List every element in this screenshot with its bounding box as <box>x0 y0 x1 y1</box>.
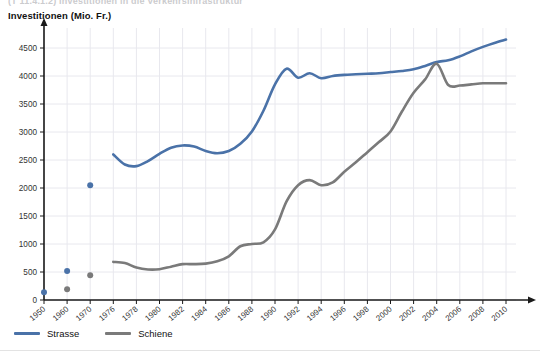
svg-text:1996: 1996 <box>328 304 348 323</box>
svg-text:1988: 1988 <box>236 304 256 323</box>
svg-text:1984: 1984 <box>190 304 210 323</box>
x-axis-ticks: 1950196019701976197819801982198419861988… <box>28 300 510 323</box>
svg-text:4500: 4500 <box>19 44 38 53</box>
chart-canvas: 050010001500200025003000350040004500 195… <box>0 0 540 351</box>
svg-text:1982: 1982 <box>166 304 186 323</box>
svg-text:2500: 2500 <box>19 156 38 165</box>
svg-text:2000: 2000 <box>19 184 38 193</box>
svg-text:3000: 3000 <box>19 128 38 137</box>
svg-text:1970: 1970 <box>74 304 94 323</box>
svg-text:2010: 2010 <box>490 304 510 323</box>
svg-text:500: 500 <box>23 268 37 277</box>
svg-text:1980: 1980 <box>143 304 163 323</box>
legend-swatch-strasse <box>14 332 40 335</box>
svg-text:2008: 2008 <box>467 304 487 323</box>
svg-text:4000: 4000 <box>19 72 38 81</box>
svg-text:1500: 1500 <box>19 212 38 221</box>
svg-text:1992: 1992 <box>282 304 302 323</box>
svg-text:0: 0 <box>32 296 37 305</box>
legend-label-strasse: Strasse <box>47 328 79 339</box>
y-axis-ticks: 050010001500200025003000350040004500 <box>19 44 44 305</box>
svg-text:1976: 1976 <box>97 304 117 323</box>
legend-swatch-schiene <box>105 332 131 335</box>
svg-text:3500: 3500 <box>19 100 38 109</box>
chart-root: (T 11.4.1.2) Investitionen in die Verkeh… <box>0 0 540 351</box>
svg-text:1990: 1990 <box>259 304 279 323</box>
svg-text:1960: 1960 <box>51 304 71 323</box>
legend-item-strasse[interactable]: Strasse <box>14 328 79 339</box>
svg-text:1978: 1978 <box>120 304 140 323</box>
legend-label-schiene: Schiene <box>138 328 172 339</box>
chart-legend: Strasse Schiene <box>14 328 173 339</box>
gridlines <box>44 28 516 300</box>
legend-item-schiene[interactable]: Schiene <box>105 328 172 339</box>
svg-text:2002: 2002 <box>397 304 417 323</box>
svg-text:1986: 1986 <box>213 304 233 323</box>
svg-text:1950: 1950 <box>28 304 48 323</box>
svg-text:1994: 1994 <box>305 304 325 323</box>
svg-text:2004: 2004 <box>421 304 441 323</box>
svg-text:2006: 2006 <box>444 304 464 323</box>
axes <box>41 18 537 304</box>
svg-text:1998: 1998 <box>351 304 371 323</box>
svg-text:2000: 2000 <box>374 304 394 323</box>
svg-text:1000: 1000 <box>19 240 38 249</box>
